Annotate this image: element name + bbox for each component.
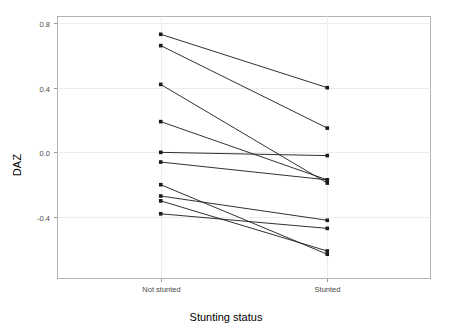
data-point bbox=[325, 252, 329, 256]
data-point bbox=[325, 227, 329, 231]
data-point bbox=[159, 194, 163, 198]
y-tick-label: 0.4 bbox=[24, 84, 50, 93]
x-axis-title: Stunting status bbox=[0, 311, 452, 323]
data-point bbox=[325, 218, 329, 222]
x-tick-label: Stunted bbox=[315, 285, 341, 294]
data-point bbox=[325, 154, 329, 158]
plot-area bbox=[0, 0, 452, 329]
data-point bbox=[325, 181, 329, 185]
y-axis-title: DAZ bbox=[11, 153, 23, 176]
data-point bbox=[325, 86, 329, 90]
data-point bbox=[325, 249, 329, 253]
data-point bbox=[159, 183, 163, 187]
data-point bbox=[159, 32, 163, 36]
data-point bbox=[325, 126, 329, 130]
y-tick-label: 0.0 bbox=[24, 148, 50, 157]
data-point bbox=[159, 212, 163, 216]
stunting-daz-slopegraph: DAZ Stunting status Not stuntedStunted 0… bbox=[0, 0, 452, 329]
panel-background bbox=[58, 17, 431, 279]
data-point bbox=[159, 44, 163, 48]
data-point bbox=[159, 199, 163, 203]
x-tick-label: Not stunted bbox=[142, 285, 180, 294]
data-point bbox=[325, 178, 329, 182]
data-point bbox=[159, 151, 163, 155]
y-tick-label: -0.4 bbox=[24, 213, 50, 222]
data-point bbox=[159, 83, 163, 87]
y-tick-label: 0.8 bbox=[24, 19, 50, 28]
y-tick-marks bbox=[54, 24, 58, 218]
data-point bbox=[159, 120, 163, 124]
x-tick-marks bbox=[162, 279, 328, 283]
data-point bbox=[159, 160, 163, 164]
